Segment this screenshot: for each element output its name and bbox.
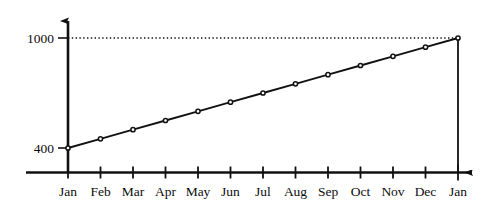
- data-point-marker: [293, 82, 297, 86]
- data-point-marker: [261, 91, 265, 95]
- x-axis-tick-label-may: May: [186, 184, 211, 199]
- x-axis-tick-label-jul: Jul: [255, 184, 271, 199]
- x-axis-tick-label-nov: Nov: [381, 184, 404, 199]
- data-point-marker: [358, 63, 362, 67]
- x-axis-tick-label-jan-start: Jan: [59, 184, 77, 199]
- data-point-marker: [326, 73, 330, 77]
- data-point-marker: [98, 137, 102, 141]
- data-point-marker: [66, 146, 70, 150]
- plot-background: [0, 0, 499, 207]
- x-axis-tick-label-apr: Apr: [155, 184, 176, 199]
- data-point-marker: [423, 45, 427, 49]
- x-axis-tick-label-jun: Jun: [221, 184, 240, 199]
- line-chart: 1000 400 Jan Feb Mar Apr May Jun Jul Aug…: [0, 0, 499, 207]
- x-axis-tick-label-oct: Oct: [351, 184, 371, 199]
- data-point-marker: [196, 109, 200, 113]
- data-point-marker: [391, 54, 395, 58]
- y-axis-tick-label-1000: 1000: [27, 31, 54, 46]
- data-point-marker: [456, 36, 460, 40]
- chart-canvas: 1000 400 Jan Feb Mar Apr May Jun Jul Aug…: [0, 0, 499, 207]
- data-point-marker: [163, 118, 167, 122]
- x-axis-tick-label-dec: Dec: [415, 184, 437, 199]
- x-axis-tick-label-jan-end: Jan: [449, 184, 467, 199]
- x-axis-tick-label-sep: Sep: [318, 184, 339, 199]
- x-axis-tick-label-feb: Feb: [90, 184, 111, 199]
- x-axis-tick-label-aug: Aug: [284, 184, 307, 199]
- data-point-marker: [228, 100, 232, 104]
- x-axis-tick-label-mar: Mar: [122, 184, 145, 199]
- y-axis-tick-label-400: 400: [34, 141, 55, 156]
- data-point-marker: [131, 128, 135, 132]
